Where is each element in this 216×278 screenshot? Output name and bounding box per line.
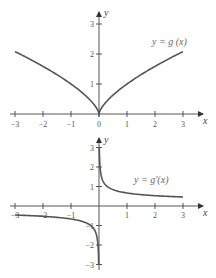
x-tick-label: −1 xyxy=(67,120,76,129)
plot-g: −3−2−10123123xyy = g (x) xyxy=(10,7,208,129)
x-tick-label: 1 xyxy=(125,211,129,220)
chart-figure: −3−2−10123123xyy = g (x) −3−2−1123−3−2−1… xyxy=(0,0,216,278)
x-tick-label: 2 xyxy=(153,120,157,129)
y-axis-label: y xyxy=(103,134,109,145)
y-tick-label: 3 xyxy=(90,20,94,29)
x-tick-label: −2 xyxy=(39,120,48,129)
x-axis-label: x xyxy=(202,115,208,126)
x-tick-label: 1 xyxy=(125,120,129,129)
x-tick-label: −3 xyxy=(11,120,20,129)
y-tick-label: 1 xyxy=(90,183,94,192)
curve-equation-label: y = g (x) xyxy=(151,36,187,48)
plot-g-prime: −3−2−1123−3−2−1123xyy = g′(x) xyxy=(10,134,208,270)
x-axis-label: x xyxy=(202,207,208,218)
x-tick-label: 3 xyxy=(181,211,185,220)
series-line xyxy=(15,215,99,264)
y-tick-label: 3 xyxy=(90,144,94,153)
curve-equation-label: y = g′(x) xyxy=(133,174,169,186)
x-tick-label: 0 xyxy=(97,120,101,129)
y-tick-label: −3 xyxy=(85,261,94,270)
y-tick-label: 2 xyxy=(90,50,94,59)
x-tick-label: 3 xyxy=(181,120,185,129)
series-line xyxy=(99,148,183,197)
y-tick-label: 2 xyxy=(90,163,94,172)
y-tick-label: −2 xyxy=(85,241,94,250)
y-tick-label: 1 xyxy=(90,80,94,89)
y-axis-label: y xyxy=(103,7,109,18)
x-tick-label: 2 xyxy=(153,211,157,220)
